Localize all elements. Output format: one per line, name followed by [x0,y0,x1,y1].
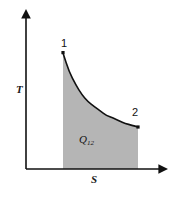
point-label-2: 2 [132,107,138,118]
point-marker-2 [136,125,139,128]
y-axis-label-temperature: T [16,84,23,95]
point-marker-1 [61,51,64,54]
heat-symbol: Q [79,133,87,145]
x-axis-label-entropy: S [91,174,97,185]
ts-diagram-svg [0,0,185,198]
heat-transfer-label: Q12 [79,134,94,145]
point-label-1: 1 [61,38,67,49]
ts-diagram-figure: T S 1 2 Q12 [0,0,185,198]
heat-subscript: 12 [87,139,94,147]
